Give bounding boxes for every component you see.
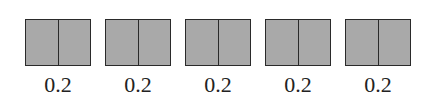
box-half-left <box>186 20 219 65</box>
box-half-right <box>139 20 171 65</box>
fraction-label: 0.2 <box>265 72 331 98</box>
fraction-label: 0.2 <box>25 72 91 98</box>
fraction-label: 0.2 <box>345 72 411 98</box>
fraction-box <box>105 19 171 66</box>
box-half-right <box>219 20 251 65</box>
fraction-item-4: 0.2 <box>265 19 331 98</box>
fraction-item-5: 0.2 <box>345 19 411 98</box>
box-half-left <box>26 20 59 65</box>
fraction-box <box>185 19 251 66</box>
fraction-box <box>345 19 411 66</box>
fraction-box <box>265 19 331 66</box>
box-half-right <box>59 20 91 65</box>
box-half-right <box>299 20 331 65</box>
fraction-box <box>25 19 91 66</box>
fraction-label: 0.2 <box>105 72 171 98</box>
box-half-left <box>266 20 299 65</box>
fraction-item-2: 0.2 <box>105 19 171 98</box>
box-half-left <box>346 20 379 65</box>
fraction-label: 0.2 <box>185 72 251 98</box>
fraction-item-1: 0.2 <box>25 19 91 98</box>
box-half-right <box>379 20 411 65</box>
fraction-item-3: 0.2 <box>185 19 251 98</box>
box-half-left <box>106 20 139 65</box>
